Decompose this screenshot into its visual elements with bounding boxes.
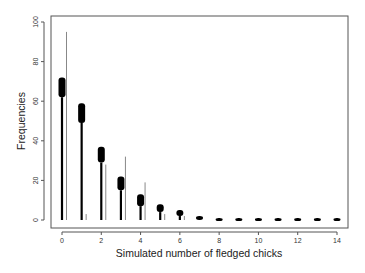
sim-range [235,218,242,221]
y-axis-title: Frequencies [15,92,27,150]
plot-frame [51,16,348,228]
sim-range [334,218,341,221]
y-tick-label: 0 [32,218,39,222]
y-tick-label: 80 [32,58,39,66]
sim-range [314,218,321,221]
y-tick-label: 40 [32,137,39,145]
x-tick-label: 6 [178,237,182,244]
sim-range [98,147,105,163]
sim-range [196,216,203,220]
x-axis: 02468101214 [60,232,341,244]
x-tick-label: 10 [255,237,263,244]
sim-range [216,218,223,221]
sim-range [78,103,85,123]
bars [59,32,341,221]
y-axis: 020406080100 [32,16,44,222]
x-tick-label: 8 [217,237,221,244]
sim-range [59,77,66,97]
y-tick-label: 60 [32,97,39,105]
sim-range [137,194,144,206]
x-tick-label: 12 [294,237,302,244]
frequency-chart: 020406080100 02468101214 Simulated numbe… [0,0,365,273]
y-tick-label: 20 [32,176,39,184]
x-axis-title: Simulated number of fledged chicks [116,247,282,259]
sim-range [157,204,164,212]
x-tick-label: 4 [139,237,143,244]
sim-range [117,176,124,190]
sim-range [294,218,301,221]
x-tick-label: 14 [333,237,341,244]
sim-range [255,218,262,221]
x-tick-label: 0 [60,237,64,244]
y-tick-label: 100 [32,16,39,28]
sim-range [176,210,183,216]
x-tick-label: 2 [99,237,103,244]
sim-range [275,218,282,221]
